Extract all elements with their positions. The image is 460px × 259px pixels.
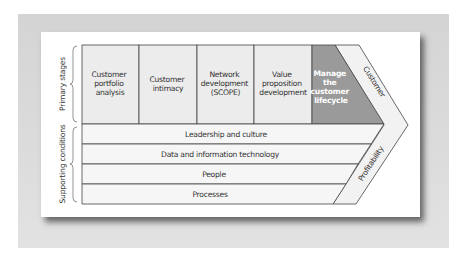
support-row-1-label: Leadership and culture [185, 130, 267, 139]
primary-stages-brace [70, 46, 77, 122]
supporting-conditions-label: Supporting conditions [58, 124, 67, 203]
stage-5-label: Manage the customer lifecycle [311, 69, 352, 105]
primary-stages-label: Primary stages [58, 57, 67, 111]
stage-1-label: Customer portfolio analysis [91, 70, 128, 97]
crm-value-chain-diagram: Customer portfolio analysis Customer int… [0, 0, 460, 259]
stage-2-label: Customer intimacy [149, 75, 186, 93]
support-row-3-label: People [202, 170, 226, 179]
supporting-conditions-brace [70, 127, 77, 202]
support-row-4-label: Processes [192, 190, 227, 199]
support-row-2-label: Data and information technology [161, 150, 280, 159]
